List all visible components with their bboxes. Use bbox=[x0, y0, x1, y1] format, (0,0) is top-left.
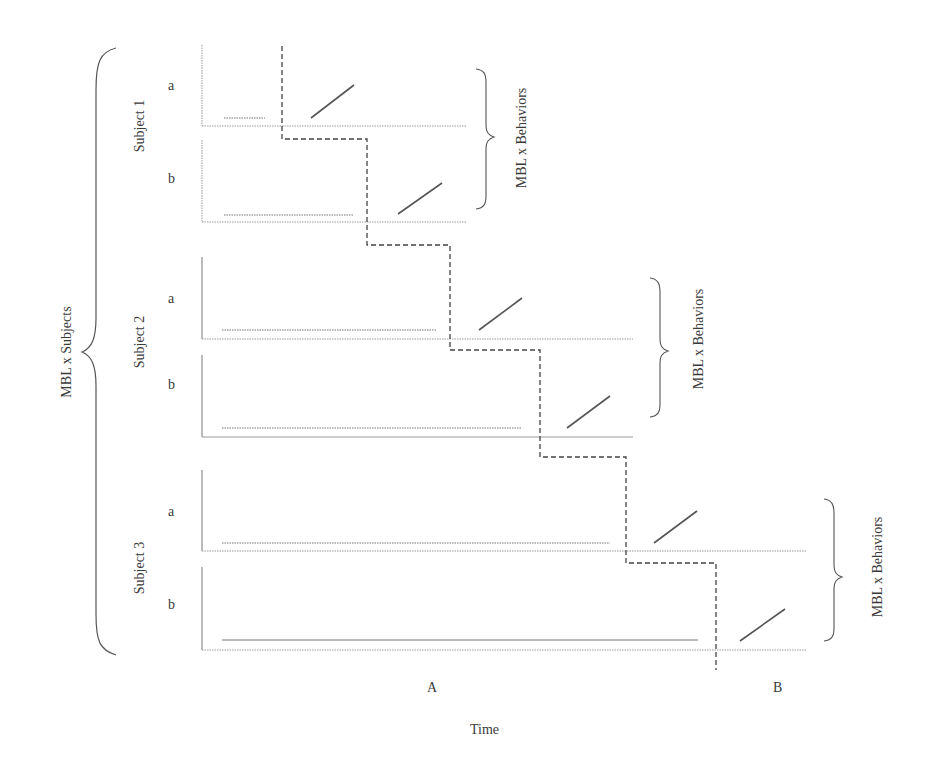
subject-3-label: Subject 3 bbox=[133, 542, 147, 595]
subject-1-label: Subject 1 bbox=[133, 100, 147, 153]
intervention-data bbox=[398, 183, 442, 214]
subject-2-behavior-b-label: b bbox=[168, 378, 175, 392]
subject-3-brace-label: MBL x Behaviors bbox=[871, 517, 885, 618]
subject-3-behavior-a-label: a bbox=[168, 505, 174, 519]
x-axis-label: Time bbox=[470, 723, 499, 737]
outer-brace bbox=[82, 48, 116, 655]
subject-2-behavior-a-label: a bbox=[168, 292, 174, 306]
subject-2-label: Subject 2 bbox=[133, 316, 147, 369]
phase-change-line bbox=[282, 46, 716, 670]
subject-2-brace-label: MBL x Behaviors bbox=[692, 289, 706, 390]
subject-3-brace bbox=[824, 499, 842, 641]
intervention-data bbox=[479, 298, 522, 330]
subject-2-panel-b bbox=[202, 355, 633, 437]
phase-a-label: A bbox=[427, 681, 437, 695]
intervention-data bbox=[311, 85, 354, 118]
subject-1-panel-b bbox=[202, 140, 466, 222]
multiple-baseline-diagram: MBL x Subjects Subject 1 Subject 2 Subje… bbox=[0, 0, 926, 775]
intervention-data bbox=[567, 396, 610, 428]
subject-2-brace bbox=[650, 278, 668, 417]
outer-brace-label: MBL x Subjects bbox=[60, 306, 74, 397]
phase-b-label: B bbox=[773, 681, 782, 695]
intervention-data bbox=[740, 609, 785, 641]
subject-1-panel-a bbox=[202, 45, 466, 126]
subject-1-brace-label: MBL x Behaviors bbox=[515, 88, 529, 189]
subject-3-panel-a bbox=[202, 470, 806, 551]
subject-1-behavior-a-label: a bbox=[168, 79, 174, 93]
subject-1-brace bbox=[476, 69, 494, 209]
subject-2-panel-a bbox=[202, 257, 633, 339]
intervention-data bbox=[654, 511, 697, 543]
subject-1-behavior-b-label: b bbox=[168, 172, 175, 186]
subject-3-behavior-b-label: b bbox=[168, 598, 175, 612]
